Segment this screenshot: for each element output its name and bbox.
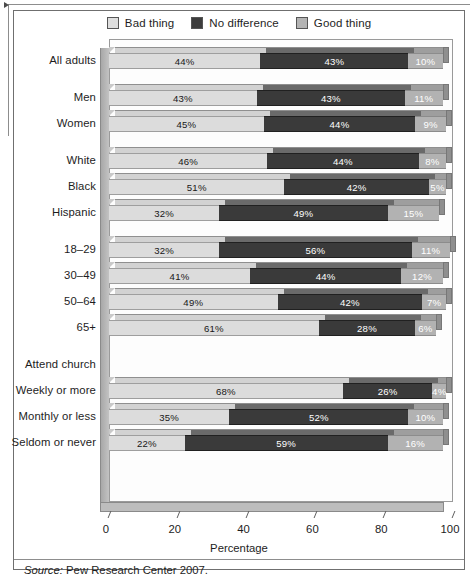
category-label-seldom-or-never: Seldom or never <box>12 436 96 448</box>
bar-segment-good[interactable]: 5% <box>429 179 446 195</box>
bar-segment-value: 10% <box>416 56 436 67</box>
bar-segment-value: 46% <box>178 156 198 167</box>
bar-body: 45%44%9% <box>109 116 453 132</box>
bar-segment-value: 32% <box>154 245 174 256</box>
bar-segment-good[interactable]: 10% <box>408 53 442 69</box>
bar-segment-value: 11% <box>414 93 433 104</box>
legend-item-bad-thing[interactable]: Bad thing <box>107 17 175 29</box>
bar-body: 35%52%10% <box>109 409 453 425</box>
bar-segment-bad[interactable]: 43% <box>109 90 257 106</box>
bar-segment-bad[interactable]: 45% <box>109 116 264 132</box>
bar-segment-nodiff[interactable]: 43% <box>257 90 405 106</box>
bar-segment-good[interactable]: 11% <box>405 90 443 106</box>
category-label-monthly-or-less: Monthly or less <box>19 410 96 422</box>
source-value: Pew Research Center 2007. <box>66 564 208 576</box>
bar-body: 32%49%15% <box>109 205 453 221</box>
bar-segment-good[interactable]: 15% <box>388 205 440 221</box>
bar-segment-nodiff[interactable]: 59% <box>185 435 388 451</box>
bar-segment-good[interactable]: 10% <box>408 409 442 425</box>
bar-body: 61%28%6% <box>109 320 453 336</box>
bar-segment-nodiff[interactable]: 56% <box>219 242 412 258</box>
bar-segment-nodiff[interactable]: 28% <box>319 320 415 336</box>
top-divider-rule <box>8 4 470 5</box>
category-label-all-adults: All adults <box>49 54 96 66</box>
bar-segment-good[interactable]: 9% <box>415 116 446 132</box>
bar-segment-good[interactable]: 4% <box>432 383 446 399</box>
bar-segment-value: 41% <box>170 271 190 282</box>
bar-row[interactable]: 44%43%10% <box>109 47 453 63</box>
axis-tick-label: 100 <box>441 523 460 535</box>
axis-tick-label: 80 <box>375 523 388 535</box>
bar-row[interactable]: 32%49%15% <box>109 199 453 215</box>
bar-segment-value: 49% <box>183 297 203 308</box>
bar-segment-value: 16% <box>405 438 425 449</box>
legend-item-good-thing[interactable]: Good thing <box>296 17 371 29</box>
bar-segment-good[interactable]: 16% <box>388 435 443 451</box>
bar-row[interactable]: 46%44%8% <box>109 147 453 163</box>
bar-segment-good[interactable]: 7% <box>422 294 446 310</box>
bar-segment-value: 6% <box>418 323 432 334</box>
bar-segment-value: 68% <box>216 386 236 397</box>
category-label-weekly-or-more: Weekly or more <box>16 384 96 396</box>
category-label-50-64: 50–64 <box>64 295 96 307</box>
bar-segment-nodiff[interactable]: 44% <box>264 116 415 132</box>
bar-row[interactable]: 35%52%10% <box>109 403 453 419</box>
bar-segment-bad[interactable]: 35% <box>109 409 229 425</box>
bar-segment-nodiff[interactable]: 52% <box>229 409 408 425</box>
bar-row[interactable]: 49%42%7% <box>109 288 453 304</box>
left-margin-arrow-icon <box>4 2 9 8</box>
bar-segment-bad[interactable]: 68% <box>109 383 343 399</box>
bar-segment-bad[interactable]: 44% <box>109 53 260 69</box>
bar-segment-value: 56% <box>305 245 325 256</box>
category-label-65: 65+ <box>77 321 96 333</box>
axis-tick <box>452 511 456 518</box>
bar-segment-nodiff[interactable]: 26% <box>343 383 432 399</box>
bar-row[interactable]: 32%56%11% <box>109 236 453 252</box>
bar-segment-nodiff[interactable]: 42% <box>278 294 422 310</box>
figure-stage: Bad thing No difference Good thing All a… <box>0 0 470 578</box>
plot-area: 44%43%10%43%43%11%45%44%9%46%44%8%51%42%… <box>100 39 453 511</box>
bar-segment-value: 42% <box>340 297 360 308</box>
bar-segment-bad[interactable]: 22% <box>109 435 185 451</box>
bar-segment-value: 4% <box>432 386 446 397</box>
bar-row[interactable]: 61%28%6% <box>109 314 453 330</box>
bar-segment-value: 42% <box>347 182 367 193</box>
bar-body: 22%59%16% <box>109 435 453 451</box>
legend-item-no-difference[interactable]: No difference <box>191 17 279 29</box>
bar-row[interactable]: 45%44%9% <box>109 110 453 126</box>
bar-row[interactable]: 43%43%11% <box>109 84 453 100</box>
bar-segment-good[interactable]: 6% <box>415 320 436 336</box>
source-note: Source: Pew Research Center 2007. <box>24 564 208 576</box>
value-axis-tick-labels: 020406080100 <box>100 523 453 539</box>
bar-segment-bad[interactable]: 46% <box>109 153 267 169</box>
category-label-women: Women <box>57 117 96 129</box>
bar-segment-nodiff[interactable]: 49% <box>219 205 388 221</box>
category-label-18-29: 18–29 <box>64 243 96 255</box>
bar-segment-value: 44% <box>330 119 350 130</box>
bar-segment-bad[interactable]: 51% <box>109 179 284 195</box>
category-label-attend-church: Attend church <box>25 358 96 370</box>
bar-segment-nodiff[interactable]: 44% <box>267 153 418 169</box>
axis-tick <box>245 511 249 518</box>
bar-segment-nodiff[interactable]: 43% <box>260 53 408 69</box>
bar-segment-bad[interactable]: 32% <box>109 205 219 221</box>
category-label-black: Black <box>68 180 96 192</box>
bar-row[interactable]: 51%42%5% <box>109 173 453 189</box>
bar-segment-nodiff[interactable]: 42% <box>284 179 428 195</box>
category-label-hispanic: Hispanic <box>52 206 96 218</box>
bar-segment-bad[interactable]: 61% <box>109 320 319 336</box>
bar-segment-value: 15% <box>404 208 424 219</box>
bar-segment-bad[interactable]: 49% <box>109 294 278 310</box>
bar-segment-value: 32% <box>154 208 174 219</box>
bar-row[interactable]: 68%26%4% <box>109 377 453 393</box>
bar-segment-good[interactable]: 8% <box>419 153 447 169</box>
bar-segment-good[interactable]: 12% <box>401 268 442 284</box>
bar-row[interactable]: 41%44%12% <box>109 262 453 278</box>
bar-segment-bad[interactable]: 41% <box>109 268 250 284</box>
bar-segment-bad[interactable]: 32% <box>109 242 219 258</box>
legend-label-no-difference: No difference <box>209 17 279 29</box>
bar-segment-nodiff[interactable]: 44% <box>250 268 401 284</box>
bar-segment-good[interactable]: 11% <box>412 242 450 258</box>
bar-row[interactable]: 22%59%16% <box>109 429 453 445</box>
chart-frame: Bad thing No difference Good thing All a… <box>13 10 465 570</box>
